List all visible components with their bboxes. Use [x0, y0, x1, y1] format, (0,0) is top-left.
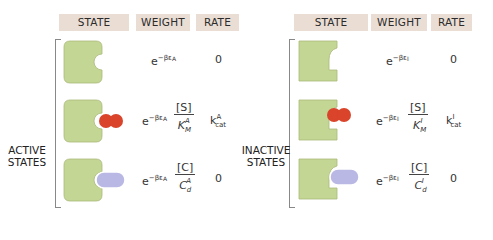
inactive-fraction-competitor: [C] CdI — [409, 161, 429, 197]
active-rate-substrate: kAcat — [210, 113, 226, 129]
inactive-enzyme-substrate — [299, 100, 351, 140]
active-rate-empty: 0 — [215, 53, 222, 66]
competitor-icon — [96, 172, 125, 188]
active-weight-competitor: e−βεA — [142, 174, 167, 188]
inactive-enzyme-empty — [299, 41, 337, 81]
active-enzyme-competitor — [64, 159, 125, 201]
inactive-rate-competitor: 0 — [450, 172, 457, 185]
inactive-enzyme-competitor — [299, 159, 359, 199]
competitor-icon — [330, 169, 359, 185]
inactive-weight-competitor: e−βεI — [376, 174, 399, 188]
active-enzyme-substrate — [64, 100, 123, 142]
active-fraction-substrate: [S] KMA — [174, 101, 194, 137]
inactive-weight-substrate: e−βεI — [376, 114, 399, 128]
inactive-fraction-substrate: [S] KMI — [408, 101, 428, 137]
inactive-rate-empty: 0 — [450, 53, 457, 66]
active-rate-competitor: 0 — [215, 172, 222, 185]
active-fraction-competitor: [C] CdA — [175, 161, 195, 197]
active-weight-substrate: e−βεA — [142, 114, 167, 128]
inactive-rate-substrate: kIcat — [446, 113, 461, 129]
active-enzyme-empty — [64, 41, 102, 83]
inactive-weight-empty: e−βεI — [386, 54, 409, 68]
active-weight-empty: e−βεA — [151, 54, 176, 68]
